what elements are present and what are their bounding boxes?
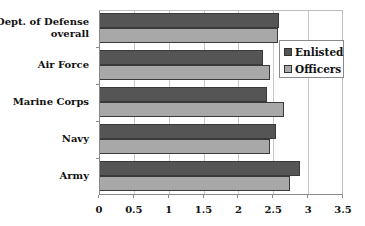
category-label: Dept. of Defenseoverall: [0, 16, 89, 40]
category-tick: [96, 121, 99, 122]
x-tick-label: 3: [293, 204, 323, 215]
x-tick: [307, 195, 308, 198]
legend-label-enlisted: Enlisted: [295, 46, 343, 58]
legend-item-officers: Officers: [284, 62, 341, 76]
bar-chart: Dept. of DefenseoverallAir ForceMarine C…: [0, 0, 365, 226]
bar-officers: [100, 102, 284, 117]
category-label: Marine Corps: [0, 96, 89, 108]
category-tick: [96, 47, 99, 48]
bar-officers: [100, 28, 278, 43]
category-label: Army: [0, 170, 89, 182]
legend-swatch-enlisted: [284, 48, 292, 56]
x-tick-label: 2: [223, 204, 253, 215]
x-tick: [272, 195, 273, 198]
x-tick-label: 1: [154, 204, 184, 215]
category-label: Navy: [0, 133, 89, 145]
bar-officers: [100, 176, 290, 191]
x-tick: [133, 195, 134, 198]
category-label: Air Force: [0, 59, 89, 71]
bar-officers: [100, 139, 270, 154]
bar-enlisted: [100, 87, 267, 102]
gridline: [308, 11, 309, 194]
x-tick-label: 0: [84, 204, 114, 215]
x-tick: [237, 195, 238, 198]
bar-enlisted: [100, 13, 279, 28]
legend-swatch-officers: [284, 65, 292, 73]
x-tick-label: 2.5: [258, 204, 288, 215]
bar-enlisted: [100, 50, 263, 65]
x-tick: [342, 195, 343, 198]
x-tick-label: 1.5: [189, 204, 219, 215]
plot-area: [99, 10, 343, 195]
bar-officers: [100, 65, 270, 80]
legend: Enlisted Officers: [279, 40, 344, 78]
x-tick: [203, 195, 204, 198]
legend-label-officers: Officers: [295, 63, 341, 75]
category-tick: [96, 84, 99, 85]
legend-item-enlisted: Enlisted: [284, 45, 343, 59]
x-tick: [168, 195, 169, 198]
x-tick-label: 3.5: [328, 204, 358, 215]
x-tick: [98, 195, 99, 198]
category-tick: [96, 158, 99, 159]
bar-enlisted: [100, 161, 300, 176]
x-tick-label: 0.5: [119, 204, 149, 215]
bar-enlisted: [100, 124, 276, 139]
